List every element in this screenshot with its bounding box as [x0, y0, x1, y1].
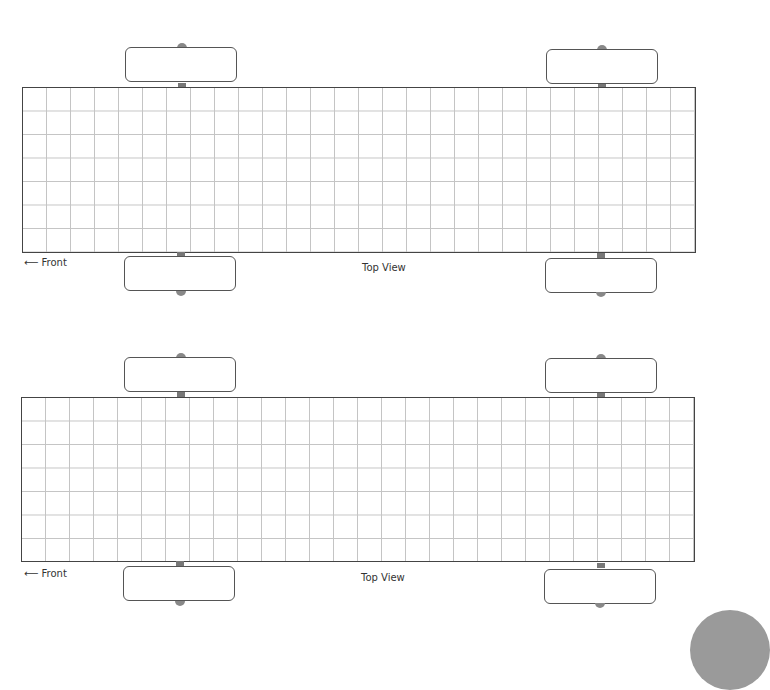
front-direction-label: ⟵ Front — [24, 257, 67, 268]
rear-right-wheel — [544, 569, 656, 604]
rear-right-wheel — [545, 258, 657, 293]
car-body-grid — [21, 397, 695, 562]
front-wheel-hub-bottom — [175, 601, 185, 606]
front-direction-label: ⟵ Front — [24, 568, 67, 579]
front-left-wheel — [125, 47, 237, 82]
rear-left-wheel — [546, 49, 658, 84]
front-right-wheel — [123, 566, 235, 601]
view-label: Top View — [362, 262, 406, 273]
axle-icon — [597, 563, 605, 568]
view-label: Top View — [361, 572, 405, 583]
car-body-grid — [22, 87, 696, 253]
front-left-wheel — [124, 357, 236, 392]
front-wheel-hub-bottom — [176, 291, 186, 296]
rear-wheel-hub-bottom — [595, 603, 605, 608]
corner-circle-decoration — [690, 610, 770, 690]
rear-wheel-hub-bottom — [596, 292, 606, 297]
rear-left-wheel — [545, 358, 657, 393]
front-right-wheel — [124, 256, 236, 291]
